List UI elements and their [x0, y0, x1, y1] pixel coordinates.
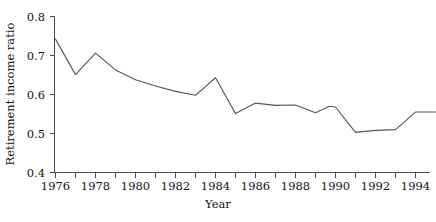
- x-tick-label: 1988: [281, 179, 310, 193]
- y-tick-label: 0.8: [27, 10, 45, 24]
- chart-figure: 0.8 0.7 0.6 0.5 0.4: [0, 0, 436, 222]
- line-chart: 0.8 0.7 0.6 0.5 0.4: [0, 0, 436, 222]
- x-axis-ticks: [56, 173, 416, 178]
- data-series-line: [56, 39, 436, 132]
- x-axis-title: Year: [204, 197, 231, 211]
- y-axis-ticks: [50, 17, 55, 173]
- x-tick-label: 1986: [241, 179, 270, 193]
- x-tick-label: 1984: [201, 179, 230, 193]
- y-tick-label: 0.5: [27, 127, 45, 141]
- y-axis-title: Retirement income ratio: [3, 23, 17, 166]
- y-tick-label: 0.4: [27, 166, 45, 180]
- x-axis-tick-labels: 1976 1978 1980 1982 1984 1986 1988 1990 …: [41, 179, 430, 193]
- x-tick-label: 1994: [401, 179, 430, 193]
- x-tick-label: 1992: [361, 179, 390, 193]
- x-tick-label: 1990: [321, 179, 350, 193]
- y-axis-tick-labels: 0.8 0.7 0.6 0.5 0.4: [27, 10, 45, 180]
- x-tick-label: 1980: [121, 179, 150, 193]
- y-tick-label: 0.6: [27, 88, 45, 102]
- x-tick-label: 1978: [81, 179, 110, 193]
- y-tick-label: 0.7: [27, 49, 45, 63]
- x-tick-label: 1976: [41, 179, 70, 193]
- x-tick-label: 1982: [161, 179, 190, 193]
